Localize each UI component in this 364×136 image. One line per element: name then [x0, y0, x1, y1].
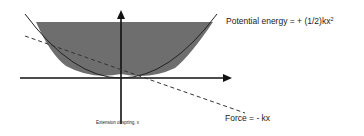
- spring-energy-diagram: Potential energy = + (1/2)kx2 Force = - …: [0, 0, 364, 136]
- force-label: Force = - kx: [225, 113, 270, 123]
- y-axis-arrow-icon: [117, 10, 125, 19]
- potential-energy-label: Potential energy = + (1/2)kx2: [226, 16, 333, 26]
- x-axis-label: Extension of spring, x: [96, 120, 139, 125]
- shaded-area: [36, 22, 213, 76]
- x-axis-arrow-icon: [223, 74, 232, 82]
